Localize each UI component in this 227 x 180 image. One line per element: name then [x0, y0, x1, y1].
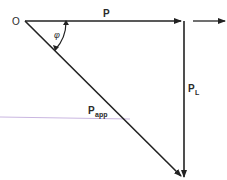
power-triangle-diagram: O P φ P L P app — [0, 0, 227, 180]
reactive-power-label: P — [188, 83, 195, 94]
reactive-power-subscript: L — [195, 89, 200, 96]
apparent-power-subscript: app — [95, 111, 107, 119]
angle-label: φ — [54, 30, 60, 40]
stray-line — [0, 117, 130, 119]
apparent-power-label: P — [88, 105, 95, 116]
apparent-power-vector — [25, 21, 181, 176]
real-power-label: P — [103, 8, 110, 19]
origin-label: O — [12, 16, 20, 27]
